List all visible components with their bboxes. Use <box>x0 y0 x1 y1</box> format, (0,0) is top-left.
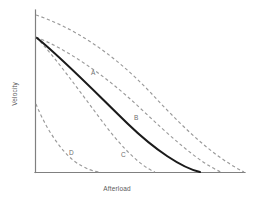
x-axis-title: Afterload <box>103 185 131 192</box>
curve-c-path <box>36 37 155 172</box>
chart-canvas: A B C D Afterload Velocity <box>0 0 256 202</box>
curve-label-b: B <box>134 114 139 121</box>
curve-d-path <box>36 104 101 172</box>
control-curve-path <box>37 38 200 172</box>
curve-label-a: A <box>91 69 96 76</box>
curve-a-path <box>36 15 244 172</box>
curve-label-c: C <box>121 151 126 158</box>
curve-label-d: D <box>69 149 74 156</box>
y-axis-title: Velocity <box>11 82 19 106</box>
force-velocity-chart: A B C D Afterload Velocity <box>0 0 256 202</box>
